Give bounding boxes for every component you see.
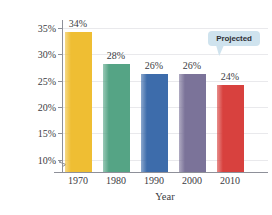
bar-value-label: 24%: [221, 71, 239, 82]
projected-callout-tail: [216, 45, 225, 56]
bar-fill: [103, 64, 130, 172]
gridline: [62, 28, 268, 29]
y-axis-spine: [62, 20, 63, 173]
bar-fill: [217, 85, 244, 172]
bar-value-label: 34%: [69, 18, 87, 29]
x-axis-spine: [54, 172, 268, 173]
bar[interactable]: 26%: [179, 74, 206, 172]
bar-value-label: 26%: [145, 60, 163, 71]
y-tick-mark: [58, 28, 63, 29]
bar[interactable]: 24%: [217, 85, 244, 172]
y-tick-label: 15%: [38, 128, 56, 139]
projected-label: Projected: [216, 34, 252, 43]
projected-callout: Projected: [208, 31, 260, 46]
chart-title: [0, 0, 272, 1]
y-tick-label: 20%: [38, 102, 56, 113]
y-tick-label: 25%: [38, 75, 56, 86]
bar-fill: [141, 74, 168, 172]
y-tick-label: 35%: [38, 22, 56, 33]
y-tick-mark: [58, 107, 63, 108]
bar[interactable]: 34%: [65, 32, 92, 172]
x-tick-label: 2010: [207, 175, 253, 186]
bar-fill: [65, 32, 92, 172]
y-tick-mark: [58, 133, 63, 134]
x-axis-title: Year: [62, 191, 268, 202]
gridline: [62, 54, 268, 55]
y-tick-mark: [58, 54, 63, 55]
y-tick-label: 30%: [38, 49, 56, 60]
bar-fill: [179, 74, 206, 172]
bar[interactable]: 26%: [141, 74, 168, 172]
bar[interactable]: 28%: [103, 64, 130, 172]
bar-chart: Percentage of Total U.S. Population 35%3…: [0, 0, 272, 215]
bar-value-label: 26%: [183, 60, 201, 71]
y-tick-label: 10%: [38, 154, 56, 165]
bar-value-label: 28%: [107, 50, 125, 61]
y-tick-mark: [58, 81, 63, 82]
